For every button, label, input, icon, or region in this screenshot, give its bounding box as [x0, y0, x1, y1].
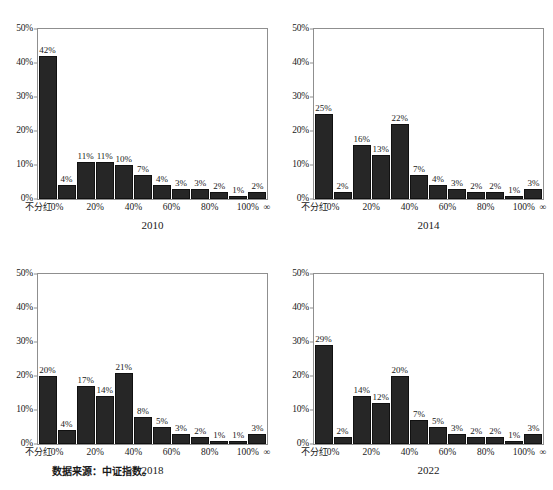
- bar: [448, 189, 466, 199]
- bar-cell: 2%: [333, 29, 352, 199]
- bar-value-label: 4%: [156, 175, 168, 184]
- bar-value-label: 7%: [413, 165, 425, 174]
- x-axis-tick-label: 20%: [363, 203, 380, 213]
- bar-cell: 3%: [172, 274, 191, 444]
- bar-value-label: 14%: [353, 386, 370, 395]
- bar-cell: 10%: [114, 29, 133, 199]
- bar-cell: 2%: [467, 274, 486, 444]
- bar: [248, 434, 266, 444]
- bar: [96, 162, 114, 199]
- bar: [315, 114, 333, 199]
- y-axis-tick-label: 50%: [292, 24, 309, 34]
- bar-cell: 7%: [409, 29, 428, 199]
- bar-value-label: 2%: [213, 182, 225, 191]
- y-axis-2022: 0%10%20%30%40%50%: [276, 273, 313, 445]
- bar-cell: 29%: [314, 274, 333, 444]
- bar-value-label: 20%: [392, 366, 409, 375]
- bar: [58, 430, 76, 444]
- y-axis-tick-label: 20%: [292, 126, 309, 136]
- y-axis-2010: 0%10%20%30%40%50%: [0, 28, 37, 200]
- x-axis-2022: 不分红0%20%40%60%80%100%∞: [313, 446, 544, 462]
- bar: [115, 373, 133, 444]
- bar-cell: 25%: [314, 29, 333, 199]
- y-axis-tick-label: 30%: [292, 337, 309, 347]
- bar-value-label: 1%: [213, 431, 225, 440]
- bar-value-label: 4%: [61, 175, 73, 184]
- x-axis-tick-label: 100%: [237, 203, 259, 213]
- bar-cell: 1%: [229, 274, 248, 444]
- bar: [248, 192, 266, 199]
- y-axis-2018: 0%10%20%30%40%50%: [0, 273, 37, 445]
- bar-cell: 3%: [191, 29, 210, 199]
- panel-title-2010: 2010: [37, 220, 268, 231]
- plot-area-2018: 20%4%17%14%21%8%5%3%2%1%1%3%: [37, 273, 268, 445]
- plot-area-2010: 42%4%11%11%10%7%4%3%3%2%1%2%: [37, 28, 268, 200]
- bar-value-label: 17%: [77, 376, 94, 385]
- bar-value-label: 2%: [251, 182, 263, 191]
- y-axis-tick-label: 40%: [292, 58, 309, 68]
- bar-cell: 11%: [95, 29, 114, 199]
- bar: [505, 441, 523, 444]
- x-axis-tick-label: 80%: [201, 203, 218, 213]
- bar-cell: 5%: [152, 274, 171, 444]
- bar-cell: 17%: [76, 274, 95, 444]
- bar-value-label: 3%: [451, 179, 463, 188]
- bar: [524, 434, 542, 444]
- x-axis-tick-label: 20%: [363, 448, 380, 458]
- bar-cell: 42%: [38, 29, 57, 199]
- bar-cell: 21%: [114, 274, 133, 444]
- bar: [77, 162, 95, 199]
- x-axis-tick-label: ∞: [540, 203, 547, 213]
- chart-panel-2022: 0%10%20%30%40%50% 29%2%14%12%20%7%5%3%2%…: [276, 245, 552, 490]
- bar-cell: 3%: [448, 29, 467, 199]
- bar-cell: 14%: [352, 274, 371, 444]
- x-axis-tick-label: 60%: [439, 203, 456, 213]
- bar-cell: 3%: [248, 274, 267, 444]
- bar-cell: 2%: [486, 29, 505, 199]
- bar-value-label: 2%: [489, 182, 501, 191]
- bar: [229, 441, 247, 444]
- bar-value-label: 2%: [194, 427, 206, 436]
- y-axis-tick-label: 40%: [16, 58, 33, 68]
- bar-cell: 14%: [95, 274, 114, 444]
- bar-value-label: 20%: [39, 366, 56, 375]
- bar: [210, 441, 228, 444]
- x-axis-tick-label: 100%: [513, 448, 535, 458]
- x-axis-tick-label: 20%: [87, 448, 104, 458]
- bar-cell: 2%: [210, 29, 229, 199]
- bar-value-label: 11%: [78, 152, 94, 161]
- x-axis-2014: 不分红0%20%40%60%80%100%∞: [313, 201, 544, 217]
- bar: [153, 427, 171, 444]
- bar-value-label: 10%: [116, 155, 133, 164]
- bar-cell: 2%: [467, 29, 486, 199]
- bar: [191, 437, 209, 444]
- bar: [96, 396, 114, 444]
- bar: [372, 403, 390, 444]
- bar-cell: 3%: [524, 274, 543, 444]
- bar: [467, 437, 485, 444]
- bar-series-2010: 42%4%11%11%10%7%4%3%3%2%1%2%: [38, 29, 267, 199]
- bar-value-label: 3%: [175, 179, 187, 188]
- x-axis-tick-label: 不分红: [25, 203, 52, 212]
- y-axis-tick-label: 50%: [16, 269, 33, 279]
- x-axis-tick-label: 60%: [439, 448, 456, 458]
- y-axis-tick-label: 30%: [292, 92, 309, 102]
- bar-value-label: 22%: [392, 114, 409, 123]
- bar-value-label: 4%: [432, 175, 444, 184]
- bar: [486, 437, 504, 444]
- bar: [353, 145, 371, 199]
- x-axis-tick-label: 80%: [477, 203, 494, 213]
- y-axis-tick-label: 10%: [16, 405, 33, 415]
- bar-value-label: 12%: [373, 393, 390, 402]
- bar-cell: 2%: [486, 274, 505, 444]
- bar: [505, 196, 523, 199]
- bar-cell: 8%: [133, 274, 152, 444]
- x-axis-tick-label: 0%: [327, 448, 340, 458]
- y-axis-tick-label: 10%: [16, 160, 33, 170]
- bar: [410, 420, 428, 444]
- x-axis-tick-label: 60%: [163, 203, 180, 213]
- bar-cell: 7%: [409, 274, 428, 444]
- bar-value-label: 25%: [315, 104, 332, 113]
- bar-value-label: 1%: [508, 431, 520, 440]
- bar-value-label: 8%: [137, 407, 149, 416]
